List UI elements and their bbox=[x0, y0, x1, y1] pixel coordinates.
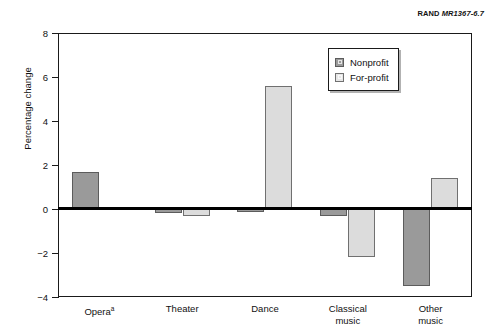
bar-group bbox=[58, 33, 141, 297]
y-tick bbox=[52, 297, 59, 298]
source-credit: RAND MR1367-6.7 bbox=[417, 9, 484, 18]
bar-chart-figure: RAND MR1367-6.7 Percentage change 86420−… bbox=[0, 0, 495, 334]
y-axis-label: Percentage change bbox=[22, 19, 33, 199]
x-axis-label: Classicalmusic bbox=[306, 303, 389, 326]
legend: Nonprofit For-profit bbox=[328, 48, 399, 91]
zero-baseline bbox=[58, 207, 472, 210]
y-tick-label: 0 bbox=[18, 204, 48, 215]
x-axis-label: Theater bbox=[141, 303, 224, 315]
bar-nonprofit[interactable] bbox=[72, 172, 99, 209]
y-tick-label: 6 bbox=[18, 72, 48, 83]
bar-forprofit[interactable] bbox=[348, 209, 375, 257]
bar-group bbox=[389, 33, 472, 297]
y-tick-label: 8 bbox=[18, 28, 48, 39]
source-credit-org: RAND bbox=[417, 9, 439, 18]
legend-item-nonprofit[interactable]: Nonprofit bbox=[335, 55, 389, 69]
x-axis-label: Othermusic bbox=[389, 303, 472, 326]
y-tick-label: −2 bbox=[18, 248, 48, 259]
bar-group bbox=[141, 33, 224, 297]
source-credit-ref: MR1367-6.7 bbox=[442, 9, 484, 18]
x-axis-label: Dance bbox=[224, 303, 307, 315]
forprofit-swatch-icon bbox=[335, 73, 344, 82]
legend-item-forprofit[interactable]: For-profit bbox=[335, 70, 389, 84]
bar-forprofit[interactable] bbox=[265, 86, 292, 209]
bars-layer bbox=[58, 33, 472, 297]
legend-label-nonprofit: Nonprofit bbox=[350, 57, 389, 68]
y-tick-label: −4 bbox=[18, 292, 48, 303]
x-axis-label: Operaa bbox=[58, 303, 141, 318]
bar-group bbox=[224, 33, 307, 297]
y-tick-label: 4 bbox=[18, 116, 48, 127]
y-tick-label: 2 bbox=[18, 160, 48, 171]
bar-nonprofit[interactable] bbox=[403, 209, 430, 286]
legend-label-forprofit: For-profit bbox=[350, 72, 389, 83]
bar-forprofit[interactable] bbox=[431, 178, 458, 209]
nonprofit-swatch-icon bbox=[335, 58, 344, 67]
